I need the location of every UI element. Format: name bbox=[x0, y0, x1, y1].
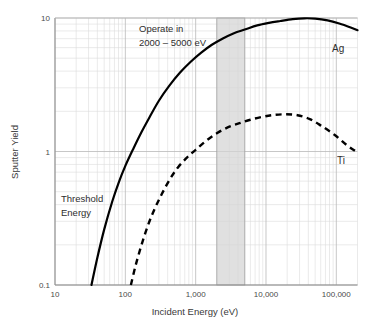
x-tick-label-1000: 1,000 bbox=[186, 290, 207, 299]
x-tick-label-100000: 100,000 bbox=[322, 290, 351, 299]
x-axis-title: Incident Energy (eV) bbox=[152, 306, 239, 317]
operating-range-band bbox=[217, 18, 245, 285]
operate-note-line2: 2000 – 5000 eV bbox=[139, 37, 207, 48]
x-tick-labels: 10 100 1,000 10,000 100,000 bbox=[51, 290, 352, 299]
y-tick-label-0-1: 0.1 bbox=[39, 281, 51, 290]
sputter-yield-chart: 10 100 1,000 10,000 100,000 0.1 1 10 Inc… bbox=[0, 0, 365, 329]
x-tick-label-100: 100 bbox=[119, 290, 133, 299]
y-tick-labels: 0.1 1 10 bbox=[39, 14, 51, 290]
y-tick-label-10: 10 bbox=[41, 14, 50, 23]
series-label-ti: Ti bbox=[337, 155, 345, 166]
y-axis-title: Sputter Yield bbox=[9, 125, 20, 179]
y-tick-label-1: 1 bbox=[46, 148, 51, 157]
x-tick-label-10000: 10,000 bbox=[254, 290, 279, 299]
series-label-ag: Ag bbox=[332, 43, 344, 54]
operating-band bbox=[217, 18, 245, 285]
x-tick-label-10: 10 bbox=[51, 290, 60, 299]
chart-canvas: 10 100 1,000 10,000 100,000 0.1 1 10 Inc… bbox=[0, 0, 365, 329]
operate-note-line1: Operate in bbox=[139, 23, 183, 34]
threshold-note-line2: Energy bbox=[61, 207, 91, 218]
threshold-note-line1: Threshold bbox=[61, 193, 103, 204]
